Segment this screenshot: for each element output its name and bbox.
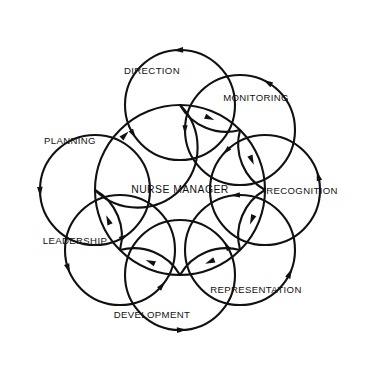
- diagram-root: DIRECTIONMONITORINGRECOGNITIONREPRESENTA…: [0, 0, 370, 376]
- nurse-manager-cycle-diagram: DIRECTIONMONITORINGRECOGNITIONREPRESENTA…: [0, 0, 370, 376]
- label-development: DEVELOPMENT: [114, 309, 190, 320]
- label-monitoring: MONITORING: [223, 92, 289, 103]
- label-recognition: RECOGNITION: [266, 185, 338, 196]
- label-planning: PLANNING: [44, 135, 96, 146]
- label-leadership: LEADERSHIP: [43, 235, 107, 246]
- label-direction: DIRECTION: [124, 65, 180, 76]
- label-representation: REPRESENTATION: [210, 284, 301, 295]
- label-nurse-manager: NURSE MANAGER: [131, 184, 229, 195]
